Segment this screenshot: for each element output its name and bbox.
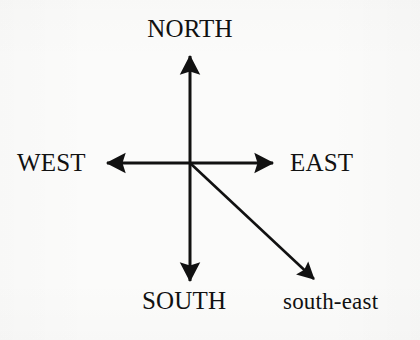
- south-east-arrow: [190, 163, 314, 279]
- label-north: NORTH: [143, 16, 237, 41]
- compass-diagram-canvas: NORTH WEST EAST SOUTH south-east: [0, 0, 420, 340]
- label-east: EAST: [290, 150, 353, 175]
- label-south-east: south-east: [283, 290, 378, 313]
- label-west: WEST: [17, 150, 86, 175]
- label-south: SOUTH: [142, 288, 226, 313]
